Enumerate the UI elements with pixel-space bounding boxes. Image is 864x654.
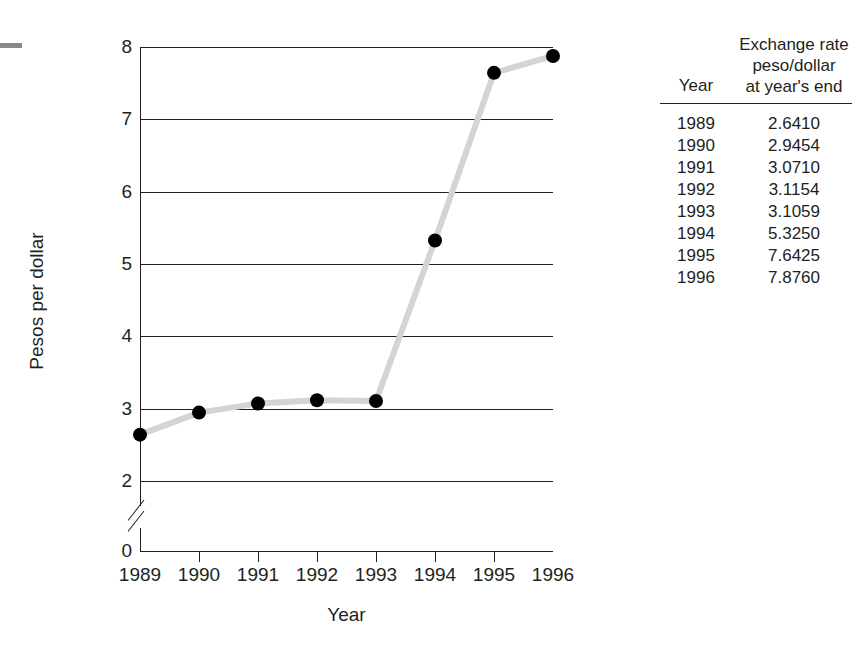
- exchange-rate-table: Year Exchange rate peso/dollar at year's…: [660, 34, 856, 289]
- column-header-line-3: at year's end: [732, 76, 856, 97]
- column-header-exchange-rate: Exchange rate peso/dollar at year's end: [732, 34, 856, 97]
- cell-exchange-rate: 7.6425: [732, 245, 856, 267]
- column-header-line-1: Exchange rate: [732, 34, 856, 55]
- cell-year: 1995: [660, 245, 732, 267]
- cell-year: 1993: [660, 201, 732, 223]
- table-row: 19892.6410: [660, 113, 856, 135]
- data-point-marker: [428, 233, 442, 247]
- table-header: Year Exchange rate peso/dollar at year's…: [660, 34, 856, 97]
- data-point-marker: [487, 66, 501, 80]
- series-markers: [133, 49, 560, 442]
- cell-year: 1992: [660, 179, 732, 201]
- series-line: [140, 56, 553, 435]
- table-body: 19892.641019902.945419913.071019923.1154…: [660, 113, 856, 289]
- table-row: 19945.3250: [660, 223, 856, 245]
- table-row: 19967.8760: [660, 267, 856, 289]
- cell-year: 1991: [660, 157, 732, 179]
- cell-exchange-rate: 7.8760: [732, 267, 856, 289]
- data-point-marker: [251, 397, 265, 411]
- data-point-marker: [310, 393, 324, 407]
- cell-exchange-rate: 5.3250: [732, 223, 856, 245]
- table-row: 19957.6425: [660, 245, 856, 267]
- cell-year: 1990: [660, 135, 732, 157]
- cell-exchange-rate: 2.6410: [732, 113, 856, 135]
- column-header-year: Year: [660, 75, 732, 97]
- cell-year: 1989: [660, 113, 732, 135]
- cell-exchange-rate: 3.1059: [732, 201, 856, 223]
- table-row: 19913.0710: [660, 157, 856, 179]
- data-point-marker: [369, 394, 383, 408]
- line-chart: 02345678 1989199019911992199319941995199…: [0, 0, 620, 654]
- data-point-marker: [546, 49, 560, 63]
- data-point-marker: [192, 406, 206, 420]
- cell-exchange-rate: 3.0710: [732, 157, 856, 179]
- table-row: 19933.1059: [660, 201, 856, 223]
- data-point-marker: [133, 428, 147, 442]
- cell-year: 1994: [660, 223, 732, 245]
- cell-year: 1996: [660, 267, 732, 289]
- table-row: 19902.9454: [660, 135, 856, 157]
- cell-exchange-rate: 3.1154: [732, 179, 856, 201]
- table-header-rule: [660, 103, 852, 104]
- column-header-line-2: peso/dollar: [732, 55, 856, 76]
- figure-exchange-rate: 02345678 1989199019911992199319941995199…: [0, 0, 864, 654]
- table-row: 19923.1154: [660, 179, 856, 201]
- cell-exchange-rate: 2.9454: [732, 135, 856, 157]
